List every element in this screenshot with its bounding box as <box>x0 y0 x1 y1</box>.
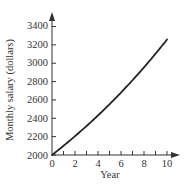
x-tick-label: 8 <box>141 158 146 169</box>
x-ticks <box>64 151 168 155</box>
x-axis-arrow-icon <box>171 152 180 158</box>
y-tick-label: 2000 <box>27 150 48 161</box>
x-tick-labels: 0 2 4 6 8 10 <box>49 158 172 169</box>
y-tick-label: 2400 <box>27 113 48 124</box>
x-tick-label: 6 <box>118 158 123 169</box>
y-axis-arrow-icon <box>49 12 55 21</box>
x-tick-label: 4 <box>95 158 101 169</box>
salary-line <box>52 40 167 155</box>
y-tick-label: 2600 <box>27 94 48 105</box>
y-ticks <box>52 27 56 156</box>
y-tick-label: 3400 <box>27 20 48 31</box>
y-tick-label: 2800 <box>27 76 48 87</box>
y-axis-title: Monthly salary (dollars) <box>4 38 16 141</box>
y-tick-label: 3000 <box>27 57 48 68</box>
x-tick-label: 0 <box>49 158 54 169</box>
x-tick-label: 2 <box>72 158 77 169</box>
x-tick-label: 10 <box>162 158 173 169</box>
x-axis-title: Year <box>100 169 120 180</box>
chart-canvas: 2000 2200 2400 2600 2800 3000 3200 3400 … <box>0 0 190 185</box>
y-tick-label: 2200 <box>27 131 48 142</box>
y-tick-label: 3200 <box>27 39 48 50</box>
y-tick-labels: 2000 2200 2400 2600 2800 3000 3200 3400 <box>27 20 48 161</box>
